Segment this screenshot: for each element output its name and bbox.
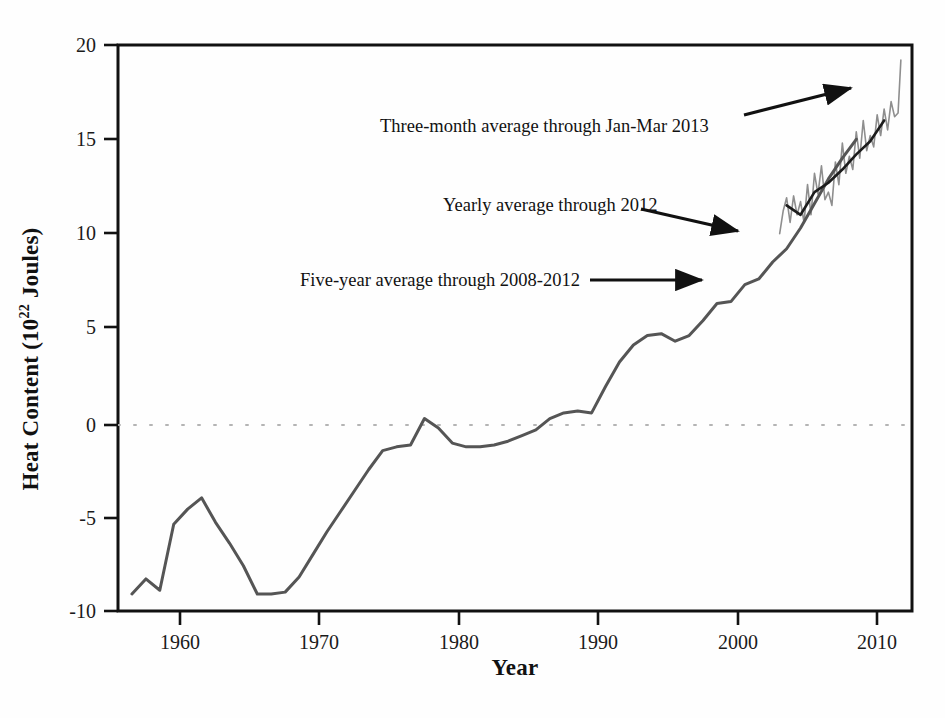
yearly-annotation-label: Yearly average through 2012 bbox=[443, 195, 657, 216]
x-tick-label-1960: 1960 bbox=[160, 631, 200, 654]
x-tick-label-2000: 2000 bbox=[718, 631, 758, 654]
five-year-annotation-label: Five-year average through 2008-2012 bbox=[300, 270, 580, 291]
x-tick-label-1970: 1970 bbox=[299, 631, 339, 654]
y-tick-label-minus10: -10 bbox=[44, 600, 96, 623]
ocean-heat-content-chart bbox=[0, 0, 945, 718]
y-tick-label-0: 0 bbox=[44, 414, 96, 437]
y-axis-title-exponent: 22 bbox=[16, 304, 32, 319]
y-tick-label-10: 10 bbox=[44, 222, 96, 245]
x-axis-ticks bbox=[180, 611, 877, 625]
series-three-month-average bbox=[780, 60, 901, 234]
x-tick-label-1990: 1990 bbox=[578, 631, 618, 654]
y-axis-ticks bbox=[104, 45, 118, 611]
chart-figure: Heat Content (1022 Joules) Year 20 15 10… bbox=[0, 0, 945, 718]
x-tick-label-2010: 2010 bbox=[857, 631, 897, 654]
x-tick-label-1980: 1980 bbox=[439, 631, 479, 654]
y-axis-title-tail: Joules) bbox=[18, 228, 43, 304]
x-axis-title: Year bbox=[118, 655, 912, 681]
y-tick-label-15: 15 bbox=[44, 128, 96, 151]
three-month-annotation-arrow bbox=[744, 88, 851, 115]
y-tick-label-5: 5 bbox=[44, 316, 96, 339]
y-tick-label-20: 20 bbox=[44, 34, 96, 57]
y-tick-label-minus5: -5 bbox=[44, 507, 96, 530]
y-axis-title: Heat Content (1022 Joules) bbox=[0, 0, 48, 718]
three-month-annotation-label: Three-month average through Jan-Mar 2013 bbox=[380, 116, 709, 137]
y-axis-title-base: Heat Content (10 bbox=[18, 319, 43, 491]
